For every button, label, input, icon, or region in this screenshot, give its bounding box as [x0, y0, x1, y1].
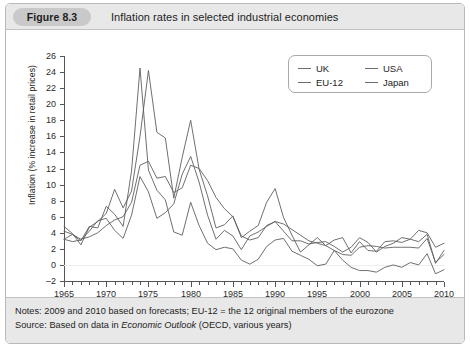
series-line-eu-12 [64, 161, 444, 262]
legend-label-uk: UK [316, 63, 329, 74]
legend-item-japan: Japan [365, 77, 409, 88]
chart-plot-area: Inflation (% increase in retail prices) … [6, 30, 464, 298]
figure-title: Inflation rates in selected industrial e… [111, 4, 338, 30]
footer-source-title: Economic Outlook [121, 320, 196, 330]
legend-label-usa: USA [383, 63, 403, 74]
legend-item-uk: UK [298, 63, 329, 74]
legend-item-eu12: EU-12 [298, 77, 343, 88]
legend-label-japan: Japan [383, 77, 409, 88]
legend-label-eu12: EU-12 [316, 77, 343, 88]
series-line-uk [64, 70, 444, 252]
legend-swatch-japan [365, 82, 378, 84]
figure-footer: Notes: 2009 and 2010 based on forecasts;… [6, 297, 464, 343]
legend-swatch-uk [298, 68, 311, 70]
footer-source-post: (OECD, various years) [196, 320, 291, 330]
footer-notes-text: 2009 and 2010 based on forecasts; EU-12 … [42, 306, 394, 316]
series-line-usa [64, 156, 444, 263]
footer-source: Source: Based on data in Economic Outloo… [15, 319, 455, 333]
legend-swatch-usa [365, 68, 378, 70]
footer-notes-label: Notes: [15, 306, 42, 316]
series-line-japan [64, 68, 444, 274]
figure-badge: Figure 8.3 [13, 8, 91, 26]
legend-item-usa: USA [365, 63, 403, 74]
figure-card: Figure 8.3 Inflation rates in selected i… [5, 3, 465, 344]
legend-swatch-eu12 [298, 82, 311, 84]
footer-notes: Notes: 2009 and 2010 based on forecasts;… [15, 305, 455, 319]
chart-legend: UK USA EU-12 Japan [288, 55, 432, 93]
figure-header: Figure 8.3 Inflation rates in selected i… [6, 4, 464, 30]
footer-source-label: Source: [15, 320, 47, 330]
footer-source-pre: Based on data in [47, 320, 121, 330]
